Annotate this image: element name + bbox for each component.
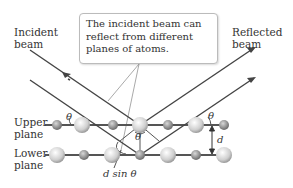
- lower-plane-label: Lower plane: [14, 147, 48, 171]
- upper-plane-label: Upper plane: [14, 116, 48, 140]
- theta-label-reflected: θ: [208, 110, 214, 121]
- reflected-beam-label: Reflected beam: [232, 26, 282, 50]
- reflected-beam-lower: [140, 78, 254, 155]
- d-spacing-arrow: [210, 126, 215, 154]
- theta-label-center: θ: [135, 131, 141, 142]
- theta-label-incident: θ: [66, 111, 72, 122]
- callout-box: The incident beam can reflect from diffe…: [79, 13, 218, 64]
- d-label: d: [217, 134, 223, 145]
- incident-beam-label: Incident beam: [14, 26, 58, 50]
- d-sin-theta-label: d sin θ: [103, 168, 137, 179]
